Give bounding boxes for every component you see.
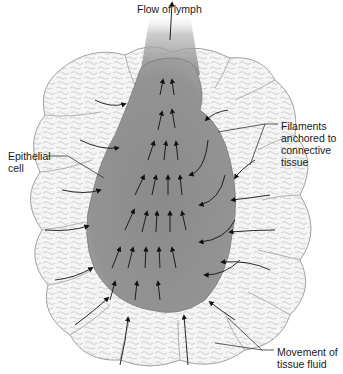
label-movement-of-tissue-fluid: Movement of tissue fluid: [277, 346, 338, 370]
label-epithelial-cell: Epithelial cell: [8, 150, 51, 174]
label-filaments: Filaments anchored to connective tissue: [281, 120, 336, 168]
label-flow-of-lymph: Flow of lymph: [137, 3, 202, 15]
lymphatic-capillary-diagram: [0, 0, 343, 374]
